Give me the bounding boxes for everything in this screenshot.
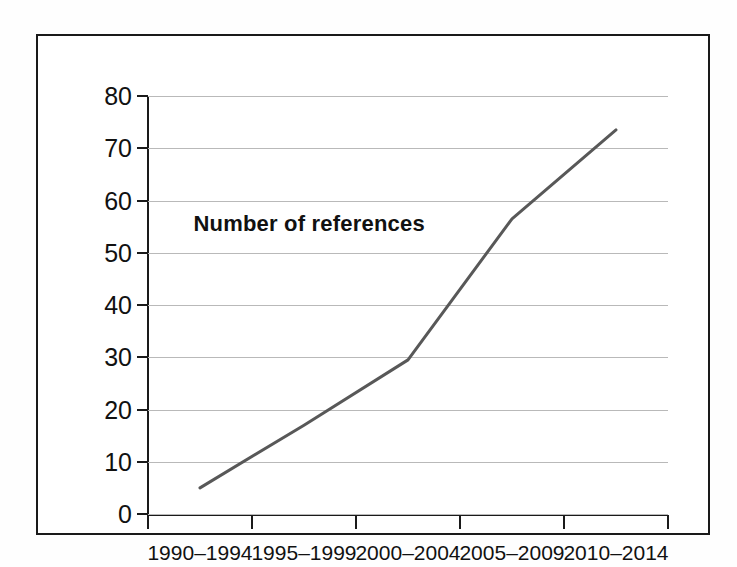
y-axis-tick [137,200,148,202]
y-axis-tick [137,304,148,306]
chart-page: 01020304050607080 1990–19941995–19992000… [0,0,737,567]
y-axis-tick-label: 70 [104,136,132,161]
y-axis-tick-label: 0 [118,502,132,527]
x-axis-tick-label: 2005–2009 [459,542,564,563]
y-axis-tick [137,461,148,463]
x-axis-tick-label: 2010–2014 [563,542,668,563]
y-axis-tick-label: 40 [104,293,132,318]
y-axis-tick-label: 80 [104,84,132,109]
y-axis-tick-label: 50 [104,240,132,265]
y-axis-tick-label: 10 [104,449,132,474]
x-axis-tick [355,515,357,529]
x-axis-tick-label: 1990–1994 [147,542,252,563]
x-axis-tick [563,515,565,529]
x-axis-tick-label: 2000–2004 [355,542,460,563]
series-polyline [200,130,616,488]
y-axis-tick [137,95,148,97]
y-axis-tick [137,356,148,358]
x-axis-tick [459,515,461,529]
x-axis-tick [667,515,669,529]
x-axis-tick [147,515,149,529]
plot-area: 01020304050607080 1990–19941995–19992000… [148,96,668,514]
x-axis-tick-label: 1995–1999 [251,542,356,563]
y-axis-tick [137,147,148,149]
y-axis-tick-label: 20 [104,397,132,422]
y-axis-tick-label: 30 [104,345,132,370]
y-axis-tick [137,409,148,411]
chart-frame: 01020304050607080 1990–19941995–19992000… [36,34,710,535]
data-series-line [148,96,668,515]
y-axis-tick [137,252,148,254]
x-axis-tick [251,515,253,529]
chart-title: Number of references [193,211,424,237]
y-axis-tick-label: 60 [104,188,132,213]
